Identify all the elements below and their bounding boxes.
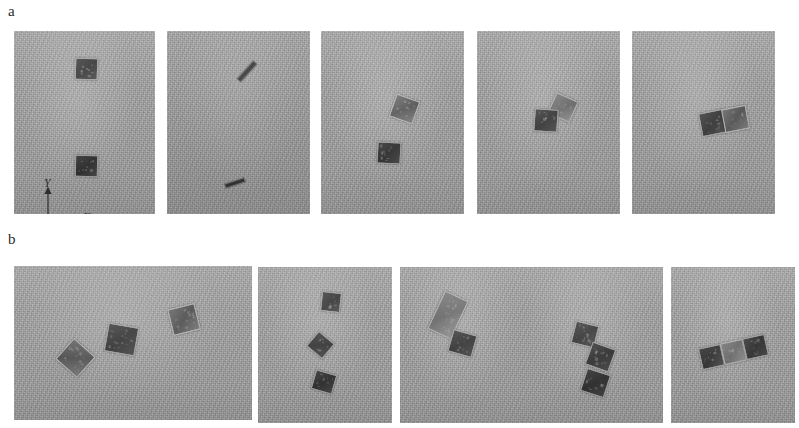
panel-b-3 <box>400 267 532 423</box>
figure-root: aYXZOb <box>0 0 799 428</box>
panel-a-4 <box>477 31 620 214</box>
panel-a-3 <box>321 31 464 214</box>
panel-shading-overlay <box>321 31 464 214</box>
axis-label-x: X <box>82 210 91 214</box>
panel-shading-overlay <box>400 267 532 423</box>
panel-shading-overlay <box>167 31 310 214</box>
panel-a-5 <box>632 31 775 214</box>
panel-shading-overlay <box>671 267 795 423</box>
row-label-b: b <box>8 232 16 247</box>
coordinate-axes: YXZO <box>36 179 96 214</box>
panel-shading-overlay <box>14 266 252 420</box>
panel-b-2 <box>258 267 392 423</box>
panel-shading-overlay <box>477 31 620 214</box>
panel-shading-overlay <box>632 31 775 214</box>
panel-shading-overlay <box>258 267 392 423</box>
row-label-a: a <box>8 4 15 19</box>
panel-b-4 <box>523 267 663 423</box>
panel-shading-overlay <box>523 267 663 423</box>
axis-label-y: Y <box>44 176 52 190</box>
panel-b-1 <box>14 266 252 420</box>
panel-b-5 <box>671 267 795 423</box>
panel-a-1: YXZO <box>14 31 155 214</box>
panel-a-2 <box>167 31 310 214</box>
